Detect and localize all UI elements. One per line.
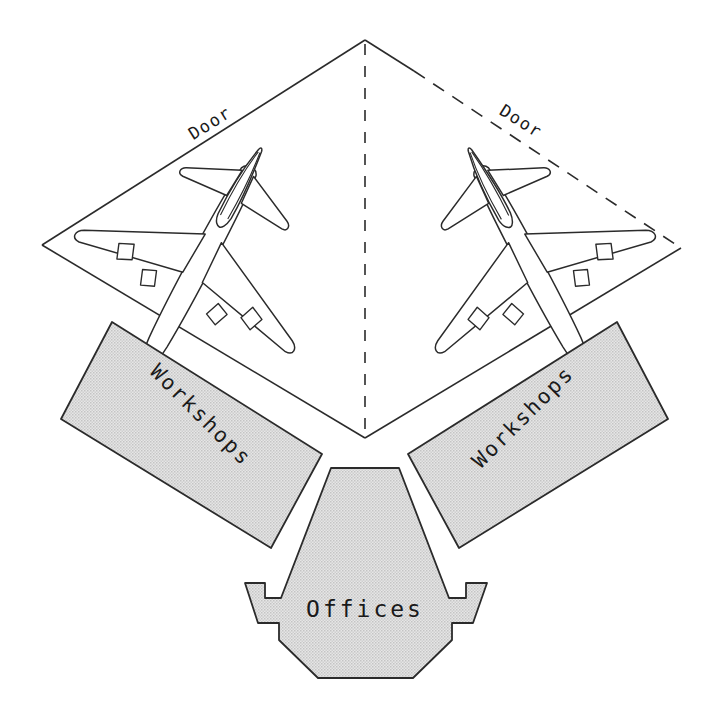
- hangar-layout-diagram: Door Door Workshops Workshops Offices: [0, 0, 715, 724]
- building-workshops-right[interactable]: [408, 322, 668, 548]
- hangar-plan-canvas: Door Door Workshops Workshops Offices: [0, 0, 715, 724]
- door-edge-right-stub: [365, 40, 414, 71]
- offices-label: Offices: [306, 596, 424, 622]
- door-label-right: Door: [496, 100, 546, 142]
- building-workshops-left[interactable]: [61, 322, 322, 548]
- workshops-left-shape: [61, 322, 322, 548]
- door-edge-left-line: [42, 40, 365, 245]
- workshops-right-shape: [408, 322, 668, 548]
- door-label-left: Door: [185, 102, 235, 144]
